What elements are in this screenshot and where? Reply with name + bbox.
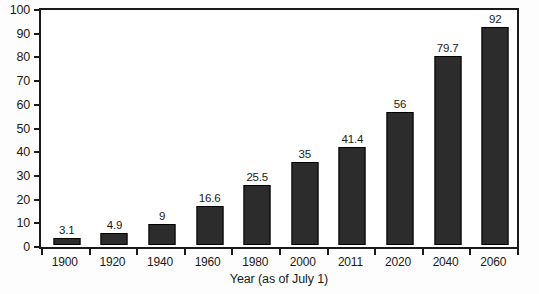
bar-value-label: 92 (489, 13, 501, 25)
y-axis-tick: 70 (16, 74, 39, 88)
y-axis-tick: 20 (16, 193, 39, 207)
bars-layer: 3.14.9916.625.53541.45679.792 (43, 12, 515, 245)
bar-value-label: 4.9 (107, 219, 122, 231)
bar[interactable] (244, 185, 271, 245)
bar-chart: 1009080706050403020100 3.14.9916.625.535… (0, 0, 539, 294)
x-axis-tick-label: 1940 (147, 255, 173, 269)
bar-group: 79.7 (424, 12, 472, 245)
bar[interactable] (291, 162, 318, 245)
y-axis-tick-label: 90 (16, 27, 34, 41)
x-axis-tick-mark (89, 249, 91, 255)
x-axis-title: Year (as of July 1) (39, 272, 519, 286)
x-axis-tick-mark (136, 249, 138, 255)
x-axis-tick-mark (279, 249, 281, 255)
bar-group: 9 (138, 12, 186, 245)
y-axis-tick-label: 20 (16, 193, 34, 207)
y-axis-tick-label: 50 (16, 122, 34, 136)
y-axis-tick-label: 30 (16, 169, 34, 183)
bar-value-label: 9 (159, 210, 165, 222)
bar[interactable] (53, 238, 80, 245)
y-axis-tick: 10 (16, 216, 39, 230)
bar-value-label: 16.6 (199, 192, 221, 204)
y-axis-tick-label: 0 (23, 240, 34, 254)
bar-value-label: 25.5 (246, 171, 268, 183)
bar-group: 35 (281, 12, 329, 245)
bar-group: 25.5 (233, 12, 281, 245)
x-axis-tick-label: 2040 (433, 255, 459, 269)
y-axis-tick-label: 70 (16, 74, 34, 88)
y-axis-tick: 0 (23, 240, 39, 254)
x-axis-tick-mark (517, 249, 519, 255)
bar-value-label: 79.7 (437, 42, 459, 54)
y-axis-tick: 100 (10, 3, 39, 17)
x-axis-tick-mark (469, 249, 471, 255)
y-axis-tick-label: 80 (16, 50, 34, 64)
bar-value-label: 3.1 (59, 224, 74, 236)
y-axis-tick-label: 40 (16, 145, 34, 159)
plot-area: 3.14.9916.625.53541.45679.792 (39, 8, 519, 249)
x-axis: 1900192019401960198020002011202020402060 (39, 249, 519, 273)
bar-group: 4.9 (91, 12, 139, 245)
x-axis-tick-label: 2000 (290, 255, 316, 269)
bar-value-label: 41.4 (342, 133, 364, 145)
bar-group: 16.6 (186, 12, 234, 245)
y-axis-tick: 90 (16, 27, 39, 41)
y-axis-tick: 50 (16, 122, 39, 136)
bar[interactable] (482, 27, 509, 245)
y-axis-tick: 80 (16, 50, 39, 64)
bar-group: 41.4 (329, 12, 377, 245)
x-axis-tick-mark (374, 249, 376, 255)
y-axis-tick: 40 (16, 145, 39, 159)
x-axis-tick-mark (41, 249, 43, 255)
x-axis-tick-label: 2060 (480, 255, 506, 269)
y-axis-tick: 30 (16, 169, 39, 183)
bar-group: 3.1 (43, 12, 91, 245)
bar[interactable] (339, 147, 366, 245)
y-axis: 1009080706050403020100 (0, 0, 39, 251)
bar[interactable] (386, 112, 413, 245)
bar[interactable] (148, 224, 175, 245)
bar[interactable] (434, 56, 461, 245)
x-axis-tick-label: 1960 (195, 255, 221, 269)
y-axis-tick-label: 10 (16, 216, 34, 230)
x-axis-tick-mark (184, 249, 186, 255)
bar-value-label: 35 (299, 148, 311, 160)
x-axis-tick-mark (327, 249, 329, 255)
y-axis-tick-label: 60 (16, 98, 34, 112)
bar-group: 92 (471, 12, 519, 245)
x-axis-tick-label: 1980 (242, 255, 268, 269)
bar[interactable] (101, 233, 128, 245)
bar-value-label: 56 (394, 98, 406, 110)
x-axis-tick-label: 1900 (52, 255, 78, 269)
bar[interactable] (196, 206, 223, 245)
x-axis-tick-label: 1920 (99, 255, 125, 269)
x-axis-tick-label: 2011 (338, 255, 363, 269)
x-axis-tick-label: 2020 (385, 255, 411, 269)
x-axis-tick-mark (231, 249, 233, 255)
y-axis-tick: 60 (16, 98, 39, 112)
x-axis-tick-mark (422, 249, 424, 255)
bar-group: 56 (376, 12, 424, 245)
y-axis-tick-label: 100 (10, 3, 34, 17)
